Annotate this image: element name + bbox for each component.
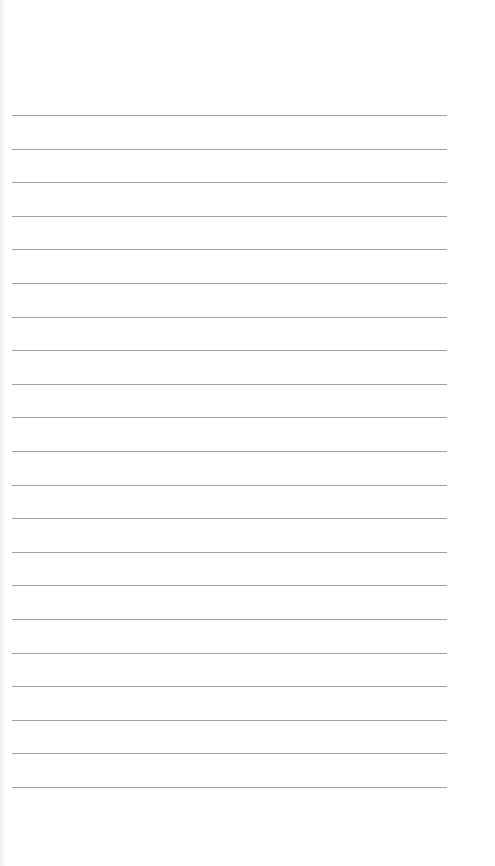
ruled-line bbox=[12, 350, 447, 351]
ruled-line bbox=[12, 653, 447, 654]
ruled-line bbox=[12, 451, 447, 452]
ruled-line bbox=[12, 317, 447, 318]
ruled-line bbox=[12, 249, 447, 250]
ruled-line bbox=[12, 518, 447, 519]
ruled-line bbox=[12, 283, 447, 284]
ruled-line bbox=[12, 485, 447, 486]
ruled-line bbox=[12, 216, 447, 217]
ruled-line bbox=[12, 585, 447, 586]
ruled-line bbox=[12, 182, 447, 183]
page-edge-shadow bbox=[0, 0, 6, 866]
ruled-line bbox=[12, 787, 447, 788]
ruled-line bbox=[12, 686, 447, 687]
ruled-line bbox=[12, 753, 447, 754]
ruled-line bbox=[12, 552, 447, 553]
ruled-line bbox=[12, 115, 447, 116]
ruled-line bbox=[12, 149, 447, 150]
ruled-line bbox=[12, 619, 447, 620]
ruled-line bbox=[12, 720, 447, 721]
ruled-line bbox=[12, 384, 447, 385]
ruled-line bbox=[12, 417, 447, 418]
